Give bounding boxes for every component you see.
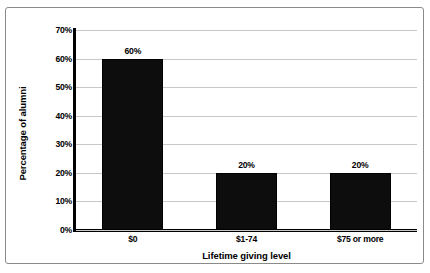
bar — [330, 173, 391, 230]
gridline — [76, 30, 417, 31]
y-axis-tick-label: 0% — [32, 225, 72, 235]
bar-value-label: 20% — [238, 160, 255, 170]
bar — [216, 173, 277, 230]
bar-value-label: 60% — [125, 46, 142, 56]
gridline — [76, 230, 417, 231]
chart-figure: Percentage of alumni 0%10%20%30%40%50%60… — [5, 7, 424, 264]
x-axis-tick-label: $75 or more — [337, 234, 384, 244]
y-axis-tick-label: 70% — [32, 25, 72, 35]
y-axis-tick-label: 50% — [32, 82, 72, 92]
x-axis-tick-label: $0 — [128, 234, 137, 244]
y-axis-tick-label: 20% — [32, 168, 72, 178]
bar-value-label: 20% — [352, 160, 369, 170]
y-axis-tick-label: 40% — [32, 111, 72, 121]
x-axis-tick-label: $1-74 — [236, 234, 257, 244]
y-axis-tick-labels: 0%10%20%30%40%50%60%70% — [28, 30, 72, 230]
y-axis-tick-label: 60% — [32, 54, 72, 64]
y-axis-tick-label: 30% — [32, 139, 72, 149]
plot-area: 60%20%20% — [76, 30, 417, 230]
bar — [102, 59, 163, 230]
y-axis-tick-label: 10% — [32, 196, 72, 206]
y-axis-title-text: Percentage of alumni — [17, 86, 28, 180]
x-axis-title: Lifetime giving level — [76, 250, 417, 261]
